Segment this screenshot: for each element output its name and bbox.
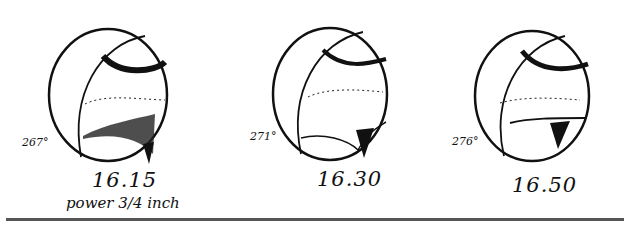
power-note: power 3/4 inch [66,194,180,212]
time-label-1: 16.15 [92,168,157,192]
longitude-label-3: 276° [452,135,479,148]
bottom-divider [6,218,624,221]
planet-drawing-3 [470,18,595,168]
planet-drawing-1 [45,14,170,169]
longitude-label-2: 271° [250,130,277,143]
time-label-3: 16.50 [512,173,577,197]
longitude-label-1: 267° [22,136,49,149]
planet-drawing-2 [268,12,393,167]
time-label-2: 16.30 [317,167,382,191]
